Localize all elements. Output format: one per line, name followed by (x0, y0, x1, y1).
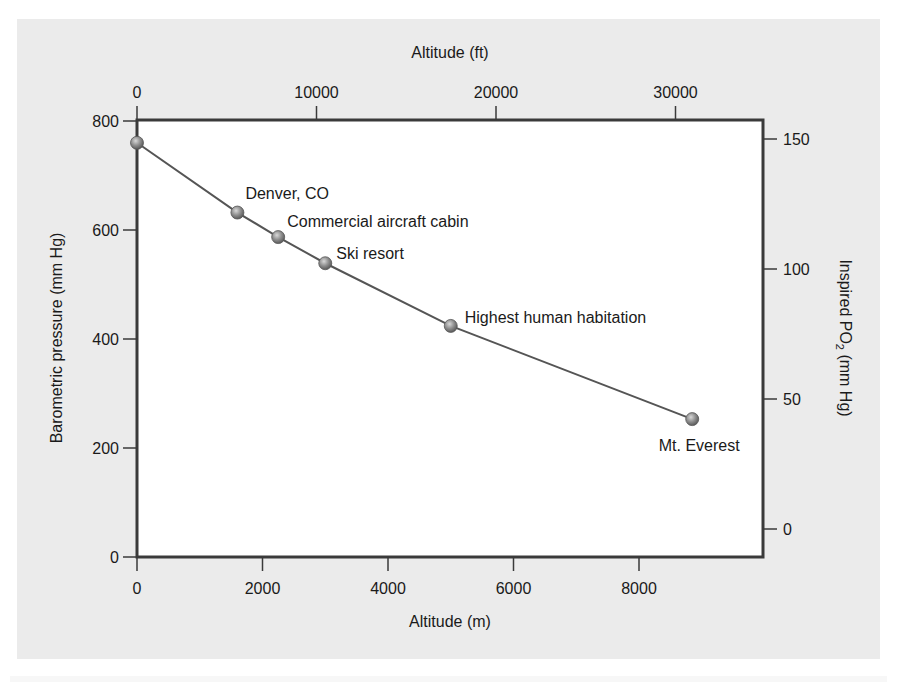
y-tick-label: 0 (110, 549, 119, 566)
x-axis-title: Altitude (m) (409, 613, 491, 630)
y-axis-title: Barometric pressure (mm Hg) (48, 233, 65, 444)
y-tick-label: 200 (92, 440, 119, 457)
y2-tick-label: 0 (783, 521, 792, 538)
data-point-label: Ski resort (336, 245, 404, 262)
data-point-marker (319, 257, 332, 270)
data-point-label: Highest human habitation (465, 309, 646, 326)
x-tick-label: 6000 (496, 580, 532, 597)
data-point-marker (131, 136, 144, 149)
x2-axis-title: Altitude (ft) (411, 44, 488, 61)
x-tick-label: 4000 (370, 580, 406, 597)
data-point-label: Commercial aircraft cabin (287, 213, 468, 230)
x2-tick-label: 30000 (653, 84, 698, 101)
data-point-marker (444, 319, 457, 332)
caption-strip (10, 676, 887, 682)
data-point-marker (272, 231, 285, 244)
x2-tick-label: 0 (133, 84, 142, 101)
y2-axis-title: Inspired PO2 (mm Hg) (834, 259, 854, 416)
y2-tick-label: 100 (783, 261, 810, 278)
y-tick-label: 800 (92, 113, 119, 130)
plot-area (137, 120, 763, 557)
y-tick-label: 600 (92, 222, 119, 239)
x-tick-label: 8000 (621, 580, 657, 597)
y-tick-label: 400 (92, 331, 119, 348)
data-point-marker (231, 206, 244, 219)
x2-tick-label: 10000 (294, 84, 339, 101)
y2-title-part1: Inspired PO (837, 259, 854, 343)
data-point-label: Mt. Everest (659, 437, 740, 454)
data-point-label: Denver, CO (245, 185, 329, 202)
data-point-marker (686, 413, 699, 426)
x-tick-label: 0 (133, 580, 142, 597)
x2-tick-label: 20000 (474, 84, 519, 101)
x-tick-label: 2000 (245, 580, 281, 597)
y2-title-part2: (mm Hg) (837, 350, 854, 417)
y2-tick-label: 50 (783, 391, 801, 408)
altitude-pressure-chart: 0200040006000800001000020000300000200400… (0, 0, 897, 682)
y2-tick-label: 150 (783, 131, 810, 148)
